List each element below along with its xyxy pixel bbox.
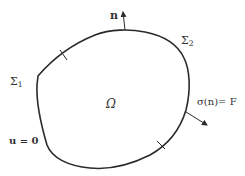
traction-arrow-icon: [186, 112, 207, 125]
normal-label: n: [110, 10, 118, 21]
diagram-canvas: n Σ2 Σ1 Ω σ(n)= F u = 0: [0, 0, 245, 176]
sigma1-subscript: 1: [18, 80, 23, 89]
dirichlet-condition-label: u = 0: [9, 136, 39, 146]
domain-boundary-drawing: [0, 0, 245, 176]
sigma1-label: Σ1: [10, 76, 23, 89]
sigma2-label: Σ2: [181, 35, 194, 48]
sigma1-symbol: Σ: [10, 75, 18, 88]
normal-arrow-icon: [123, 12, 125, 30]
traction-condition-label: σ(n)= F: [197, 97, 237, 107]
sigma2-symbol: Σ: [181, 34, 189, 47]
sigma2-subscript: 2: [189, 39, 194, 48]
domain-omega-label: Ω: [106, 98, 116, 110]
